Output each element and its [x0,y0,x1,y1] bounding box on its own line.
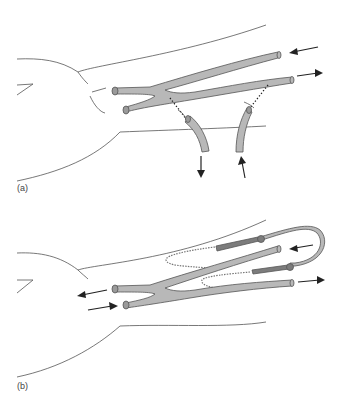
graft-end-upper-left [112,87,118,95]
arm-outline-wrist [17,84,33,95]
panel-a: (a) [0,0,342,200]
arrow-outflow-right-icon [298,276,325,284]
arm-outline-wrist [17,280,33,293]
cuff-upper [166,247,215,268]
y-graft [115,52,292,112]
graft-end-lower-right [290,77,294,84]
arrow-inflow-upper-right-icon [289,245,313,252]
arm-outline-thumb [78,270,88,279]
dark-segment-upper [216,237,259,251]
panel-a-illustration [0,0,342,200]
graft-end-lower-left [123,301,129,309]
catheter-left-tip [186,116,191,123]
graft-end-upper-right [277,246,281,253]
panel-a-label: (a) [17,183,28,193]
panel-b-illustration [0,200,342,398]
arrow-inflow-upper-right-icon [289,47,318,55]
arrow-outflow-left-icon [77,290,107,298]
catheter-right [236,108,252,152]
loop-tubing [260,226,325,266]
y-graft [115,246,292,308]
arrow-inflow-left-icon [88,302,118,310]
graft-end-lower-right [290,280,294,287]
arrow-up-right-catheter-icon [238,156,246,178]
connector-bulb-upper [258,236,265,243]
panel-b: (b) [0,200,342,398]
suture-tick-left [178,110,186,120]
panel-b-label: (b) [17,381,28,391]
catheter-right-tip [247,107,252,114]
arrow-outflow-right-icon [297,69,323,77]
arm-outline-lower [17,322,266,377]
arm-outline-thumb [78,72,88,84]
arrow-down-left-catheter-icon [197,156,205,178]
graft-end-upper-right [277,52,281,59]
dark-segment-lower [252,265,289,274]
connector-bulb-lower [287,264,294,271]
arm-outline-crease [92,88,106,92]
graft-end-lower-left [123,106,129,114]
arm-outline-lower [17,126,266,181]
graft-end-upper-left [112,285,118,293]
arm-outline-crease2 [90,96,105,113]
